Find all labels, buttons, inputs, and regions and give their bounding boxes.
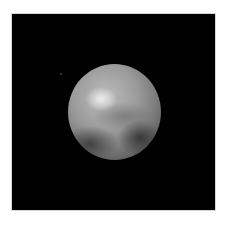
planet-globe (68, 64, 161, 160)
star-speck (60, 73, 62, 75)
image-frame: Pluto (globe on black background) (12, 14, 215, 210)
